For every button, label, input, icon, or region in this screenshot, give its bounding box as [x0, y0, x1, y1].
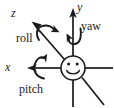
- rotation-label-yaw: yaw: [81, 20, 101, 32]
- rotation-label-roll: roll: [16, 32, 33, 44]
- origin-smiley-face: [61, 56, 85, 80]
- axis-label-x: x: [5, 61, 10, 73]
- axis-label-y: y: [77, 1, 82, 13]
- rotation-label-pitch: pitch: [19, 83, 43, 95]
- axis-label-z: z: [11, 7, 16, 19]
- face-right-eye-icon: [76, 63, 79, 66]
- roll-arrowhead: [51, 25, 60, 32]
- yaw-arc-path: [69, 29, 81, 45]
- rotation-arc-pitch: [34, 54, 47, 79]
- diagram-canvas: [0, 0, 114, 108]
- rotation-axes-diagram: z y x roll yaw pitch: [0, 0, 114, 108]
- face-outline-circle: [61, 56, 85, 80]
- axis-z-positive-shaft: [38, 29, 65, 60]
- face-left-eye-icon: [67, 63, 70, 66]
- axis-z-negative-shaft: [82, 78, 104, 106]
- pitch-arrowhead: [40, 54, 47, 63]
